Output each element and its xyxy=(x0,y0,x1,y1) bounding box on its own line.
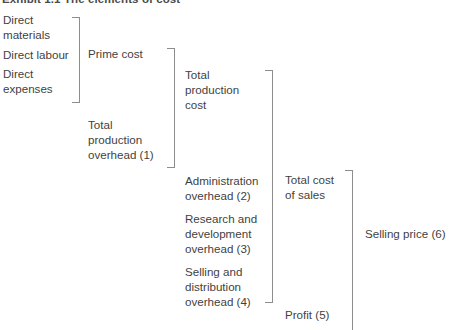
label-selling-price: Selling price (6) xyxy=(365,226,449,241)
cost-of-sales-profit-bracket xyxy=(345,170,353,330)
label-total-production-cost: Total production cost xyxy=(185,67,271,113)
label-research-development-overhead: Research and development overhead (3) xyxy=(185,211,271,257)
prime-cost-overhead-bracket xyxy=(167,48,175,168)
exhibit-title: Exhibit 1.1 The elements of cost xyxy=(0,0,445,7)
label-selling-distribution-overhead: Selling and distribution overhead (4) xyxy=(185,264,271,310)
label-direct-materials: Direct materials xyxy=(3,12,75,42)
production-cost-overheads-bracket xyxy=(265,70,273,303)
label-total-production-overhead: Total production overhead (1) xyxy=(88,117,174,163)
label-direct-expenses: Direct expenses xyxy=(3,66,75,96)
label-prime-cost: Prime cost xyxy=(88,46,168,61)
label-administration-overhead: Administration overhead (2) xyxy=(185,173,271,203)
exhibit-title-text: Exhibit 1.1 The elements of cost xyxy=(0,0,445,7)
direct-costs-bracket xyxy=(72,17,80,103)
label-direct-labour: Direct labour xyxy=(3,47,79,62)
